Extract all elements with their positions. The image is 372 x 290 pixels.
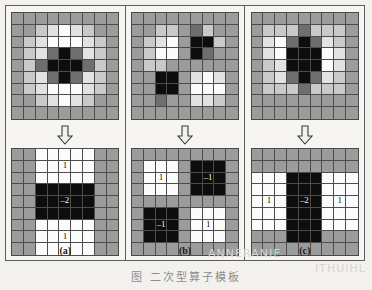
- grid-cell: [311, 72, 323, 84]
- grid-cell: [263, 95, 275, 107]
- grid-cell: [59, 184, 71, 196]
- grid-cell: [203, 37, 215, 49]
- grid-cell: [334, 173, 346, 185]
- grid-cell: [12, 95, 24, 107]
- grid-cell: [71, 220, 83, 232]
- grid-cell: [203, 231, 215, 243]
- grid-cell: [179, 220, 191, 232]
- grid-cell: [311, 48, 323, 60]
- grid-cell: [214, 208, 226, 220]
- grid-cell: [226, 72, 238, 84]
- grid-cell: [346, 161, 358, 173]
- grid-cell: [334, 107, 346, 119]
- grid-cell: [334, 84, 346, 96]
- cell-value-label: 1: [63, 232, 67, 241]
- grid-cell: [95, 161, 107, 173]
- grid-cell: –2: [299, 196, 311, 208]
- grid-cell: [252, 84, 264, 96]
- panel-a-top-grid: [11, 12, 119, 120]
- grid-cell: [179, 48, 191, 60]
- grid-cell: [71, 208, 83, 220]
- grid-cell: [144, 60, 156, 72]
- grid-cell: [263, 60, 275, 72]
- grid-cell: [179, 173, 191, 185]
- grid-cell: [95, 208, 107, 220]
- grid-cell: [48, 72, 60, 84]
- grid-cell: [299, 220, 311, 232]
- grid-cell: [156, 149, 168, 161]
- grid-cell: [311, 60, 323, 72]
- grid-cell: [334, 48, 346, 60]
- grid-cell: –2: [59, 196, 71, 208]
- grid-cell: [48, 208, 60, 220]
- grid-cell: [275, 220, 287, 232]
- grid-cell: [59, 95, 71, 107]
- grid-cell: [191, 25, 203, 37]
- grid-cell: [214, 149, 226, 161]
- grid-cell: [346, 95, 358, 107]
- grid-cell: [71, 161, 83, 173]
- grid-cell: [263, 208, 275, 220]
- panel-a-bottom-grid: 1–21: [11, 148, 119, 256]
- grid-cell: [83, 208, 95, 220]
- grid-cell: [12, 208, 24, 220]
- grid-cell: [214, 107, 226, 119]
- grid-cell: [322, 37, 334, 49]
- grid-cell: [95, 149, 107, 161]
- grid-cell: [214, 173, 226, 185]
- grid-cell: [132, 72, 144, 84]
- grid-cell: [107, 60, 119, 72]
- grid-cell: [36, 13, 48, 25]
- grid-cell: [252, 72, 264, 84]
- grid-cell: [95, 84, 107, 96]
- grid-cell: [226, 25, 238, 37]
- grid-cell: [203, 208, 215, 220]
- grid-cell: [334, 13, 346, 25]
- grid-cell: [48, 60, 60, 72]
- grid-cell: [48, 196, 60, 208]
- grid-cell: [156, 196, 168, 208]
- grid-cell: [226, 48, 238, 60]
- grid-cell: [144, 95, 156, 107]
- cell-value-label: 1: [337, 196, 341, 205]
- grid-cell: [132, 196, 144, 208]
- grid-cell: [12, 84, 24, 96]
- cell-value-label: 1: [63, 161, 67, 170]
- grid-cell: [311, 95, 323, 107]
- grid-cell: [83, 220, 95, 232]
- grid-cell: [226, 161, 238, 173]
- grid-cell: [71, 231, 83, 243]
- grid-cell: [179, 60, 191, 72]
- grid-cell: [287, 173, 299, 185]
- grid-cell: [346, 25, 358, 37]
- grid-cell: [252, 60, 264, 72]
- grid-cell: [156, 13, 168, 25]
- grid-cell: [71, 48, 83, 60]
- grid-cell: [107, 95, 119, 107]
- grid-cell: [36, 231, 48, 243]
- grid-cell: [36, 173, 48, 185]
- grid-cell: [167, 25, 179, 37]
- grid-cell: [167, 107, 179, 119]
- grid-cell: [334, 60, 346, 72]
- grid-cell: [311, 184, 323, 196]
- grid-cell: [263, 107, 275, 119]
- grid-cell: [12, 48, 24, 60]
- grid-cell: 1: [59, 161, 71, 173]
- grid-cell: [214, 196, 226, 208]
- grid-cell: [59, 149, 71, 161]
- grid-cell: [156, 84, 168, 96]
- grid-cell: [322, 60, 334, 72]
- grid-cell: [24, 149, 36, 161]
- grid-cell: [346, 107, 358, 119]
- grid-cell: [334, 95, 346, 107]
- grid-cell: [287, 184, 299, 196]
- grid-cell: [107, 13, 119, 25]
- grid-cell: [263, 48, 275, 60]
- grid-cell: [24, 161, 36, 173]
- grid-cell: [299, 72, 311, 84]
- grid-cell: [107, 72, 119, 84]
- grid-cell: [275, 72, 287, 84]
- grid-cell: [144, 208, 156, 220]
- grid-cell: [191, 48, 203, 60]
